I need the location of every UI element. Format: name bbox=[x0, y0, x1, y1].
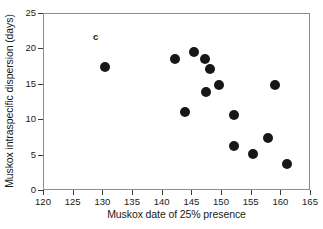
data-point bbox=[248, 149, 258, 159]
x-axis-tick-label: 130 bbox=[87, 196, 117, 207]
x-axis-tick-label: 145 bbox=[176, 196, 206, 207]
x-axis-tick-label: 160 bbox=[265, 196, 295, 207]
x-axis-tick-mark bbox=[280, 190, 281, 195]
x-axis-tick-label: 120 bbox=[28, 196, 58, 207]
data-point bbox=[170, 54, 180, 64]
x-axis-tick-mark bbox=[191, 190, 192, 195]
x-axis-tick-mark bbox=[310, 190, 311, 195]
y-axis-tick-label: 25 bbox=[0, 8, 43, 18]
y-axis-tick-label: 5 bbox=[0, 150, 43, 160]
data-points-layer bbox=[44, 14, 309, 189]
data-point bbox=[229, 110, 239, 120]
x-axis-title: Muskox date of 25% presence bbox=[43, 208, 310, 220]
data-point bbox=[100, 62, 110, 72]
y-axis-tick-value: 25 bbox=[18, 8, 36, 18]
y-axis-tick-value: 15 bbox=[18, 79, 36, 89]
data-point bbox=[229, 141, 239, 151]
y-axis-tick-label: 20 bbox=[0, 43, 43, 53]
x-axis-tick-label: 135 bbox=[117, 196, 147, 207]
y-axis-tick-value: 20 bbox=[18, 43, 36, 53]
y-axis-tick-label: 15 bbox=[0, 79, 43, 89]
x-axis-tick-label: 125 bbox=[58, 196, 88, 207]
x-axis-tick-label: 140 bbox=[147, 196, 177, 207]
data-point bbox=[189, 47, 199, 57]
data-point bbox=[282, 159, 292, 169]
y-axis-tick-value: 5 bbox=[18, 150, 36, 160]
y-axis-tick-label: 0 bbox=[0, 185, 43, 195]
data-point bbox=[214, 80, 224, 90]
scatter-plot-figure: Muskox intraspecific dispersion (days) 0… bbox=[0, 0, 323, 229]
data-point bbox=[270, 80, 280, 90]
x-axis-tick-mark bbox=[73, 190, 74, 195]
x-axis-tick-mark bbox=[132, 190, 133, 195]
y-axis-tick-value: 10 bbox=[18, 114, 36, 124]
data-point bbox=[205, 64, 215, 74]
data-point bbox=[201, 87, 211, 97]
y-axis-tick-value: 0 bbox=[18, 185, 36, 195]
plot-area: c bbox=[43, 13, 310, 190]
x-axis-tick-mark bbox=[43, 190, 44, 195]
data-point bbox=[180, 107, 190, 117]
y-axis-tick-label: 10 bbox=[0, 114, 43, 124]
x-axis-tick-mark bbox=[162, 190, 163, 195]
x-axis-tick-label: 165 bbox=[295, 196, 323, 207]
x-axis-tick-label: 150 bbox=[206, 196, 236, 207]
x-axis-tick-mark bbox=[251, 190, 252, 195]
y-axis-title: Muskox intraspecific dispersion (days) bbox=[1, 6, 17, 196]
data-point bbox=[263, 133, 273, 143]
x-axis-tick-label: 155 bbox=[236, 196, 266, 207]
x-axis-tick-mark bbox=[221, 190, 222, 195]
x-axis-tick-mark bbox=[102, 190, 103, 195]
data-point bbox=[200, 54, 210, 64]
